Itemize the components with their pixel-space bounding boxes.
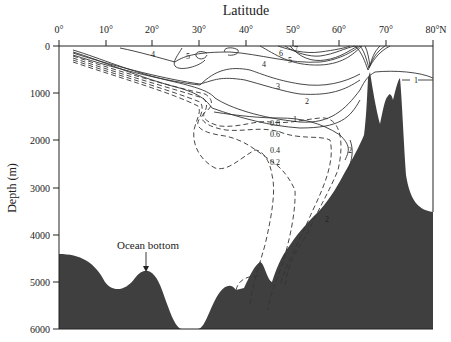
svg-text:0.6: 0.6 — [270, 130, 280, 139]
ocean-section-diagram: Latitude 0°10° 20°30° 40°50° 60°70° 80°N… — [0, 0, 451, 342]
y-ticks — [53, 46, 59, 329]
arrow-icon — [143, 252, 149, 272]
x-tick-labels: 0°10° 20°30° 40°50° 60°70° 80°N — [55, 24, 447, 35]
svg-text:4: 4 — [262, 60, 266, 69]
svg-text:5: 5 — [288, 56, 292, 65]
ocean-bottom-label: Ocean bottom — [117, 239, 179, 251]
svg-text:2: 2 — [348, 146, 352, 155]
svg-text:1000: 1000 — [30, 88, 50, 99]
svg-text:1: 1 — [414, 76, 418, 85]
svg-text:50°: 50° — [286, 24, 300, 35]
svg-text:0: 0 — [45, 41, 50, 52]
svg-text:6000: 6000 — [30, 324, 50, 335]
svg-text:5: 5 — [186, 52, 190, 61]
svg-text:7: 7 — [294, 45, 298, 54]
seafloor — [59, 72, 433, 329]
svg-text:6: 6 — [279, 49, 283, 58]
svg-text:3: 3 — [276, 82, 280, 91]
svg-text:0.4: 0.4 — [270, 146, 280, 155]
svg-text:4: 4 — [151, 50, 155, 59]
svg-text:0.8: 0.8 — [270, 119, 280, 128]
svg-text:70°: 70° — [379, 24, 393, 35]
svg-text:10°: 10° — [99, 24, 113, 35]
svg-text:0°: 0° — [55, 24, 64, 35]
x-ticks — [59, 40, 433, 46]
svg-text:2: 2 — [305, 97, 309, 106]
svg-text:80°N: 80°N — [425, 24, 446, 35]
svg-text:30°: 30° — [192, 24, 206, 35]
svg-text:5000: 5000 — [30, 277, 50, 288]
svg-text:20°: 20° — [145, 24, 159, 35]
svg-text:3000: 3000 — [30, 183, 50, 194]
svg-text:4000: 4000 — [30, 230, 50, 241]
svg-text:2: 2 — [325, 215, 329, 224]
svg-text:2000: 2000 — [30, 135, 50, 146]
svg-text:40°: 40° — [239, 24, 253, 35]
svg-text:60°: 60° — [332, 24, 346, 35]
svg-text:0.2: 0.2 — [270, 158, 280, 167]
y-axis-label: Depth (m) — [5, 163, 19, 213]
y-tick-labels: 01000 20003000 40005000 6000 — [30, 41, 50, 335]
chart-title: Latitude — [223, 3, 270, 18]
svg-text:1: 1 — [293, 115, 297, 124]
